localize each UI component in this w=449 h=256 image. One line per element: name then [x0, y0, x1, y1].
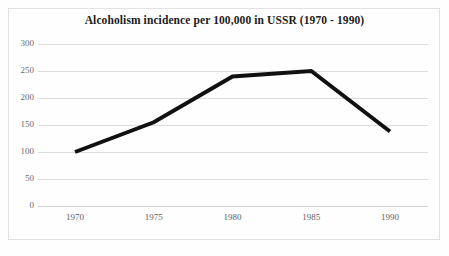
gridline — [38, 206, 428, 207]
y-tick-label: 150 — [0, 120, 34, 129]
chart-title: Alcoholism incidence per 100,000 in USSR… — [0, 14, 449, 26]
y-tick-label: 300 — [0, 39, 34, 48]
y-tick-label: 0 — [0, 201, 34, 210]
x-tick-label: 1985 — [302, 213, 320, 222]
x-tick-label: 1980 — [224, 213, 242, 222]
y-tick-label: 200 — [0, 93, 34, 102]
chart-screenshot: Alcoholism incidence per 100,000 in USSR… — [0, 0, 449, 256]
y-tick-label: 50 — [0, 174, 34, 183]
x-tick-label: 1975 — [145, 213, 163, 222]
y-tick-label: 100 — [0, 147, 34, 156]
y-axis-tick-labels: 050100150200250300 — [0, 44, 34, 206]
data-series-line — [38, 44, 428, 206]
series-polyline — [75, 71, 390, 152]
y-tick-label: 250 — [0, 66, 34, 75]
x-tick-label: 1970 — [66, 213, 84, 222]
x-axis-tick-labels: 19701975198019851990 — [38, 213, 428, 227]
x-tick-label: 1990 — [381, 213, 399, 222]
